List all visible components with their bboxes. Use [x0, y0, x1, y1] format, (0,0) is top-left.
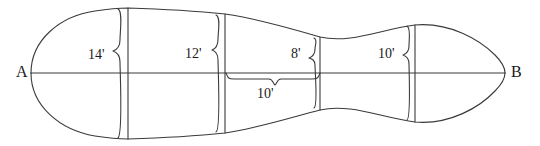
baseline-end-label: B	[511, 64, 522, 80]
offset-label-3: 8'	[291, 47, 301, 61]
baseline-start-label: A	[16, 64, 28, 80]
offset-label-4: 10'	[378, 47, 395, 61]
plot-outline-top	[31, 8, 505, 73]
plot-outline-bottom	[31, 73, 505, 139]
offset-label-1: 14'	[88, 48, 105, 62]
offset-label-2: 12'	[185, 47, 202, 61]
spacing-brace	[226, 73, 320, 85]
offset-diagram: A B 14' 12' 8' 10' 10'	[0, 0, 540, 146]
spacing-label: 10'	[257, 87, 274, 101]
diagram-canvas	[0, 0, 540, 146]
